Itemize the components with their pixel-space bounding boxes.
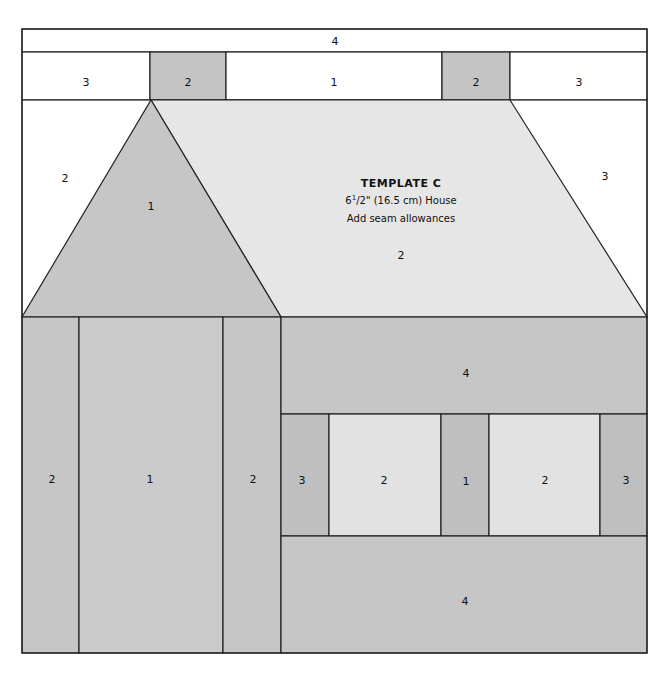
house-quilt-template: 4 3 2 1 2 3 2 1 2 3 TEMPLATE C 61/2" (16…: [0, 0, 668, 673]
label-chimney-left: 2: [185, 76, 192, 89]
template-title: TEMPLATE C: [361, 177, 442, 190]
label-door: 1: [147, 473, 154, 486]
label-roof: 2: [398, 249, 405, 262]
label-wall-top: 4: [463, 367, 470, 380]
label-window-right-side: 3: [623, 474, 630, 487]
template-size: 61/2" (16.5 cm) House: [345, 194, 456, 206]
label-sky-left: 2: [62, 172, 69, 185]
template-note: Add seam allowances: [347, 213, 455, 224]
size-rest: " (16.5 cm) House: [366, 195, 457, 206]
template-diagram: [0, 0, 668, 673]
label-door-right-strip: 2: [250, 473, 257, 486]
size-fraction-denominator: /2: [356, 195, 366, 206]
label-window-left: 2: [381, 474, 388, 487]
label-door-left-strip: 2: [49, 473, 56, 486]
label-sky-right: 3: [602, 170, 609, 183]
label-top-strip: 4: [332, 35, 339, 48]
label-wall-bottom: 4: [462, 595, 469, 608]
label-gable: 1: [148, 200, 155, 213]
label-chimney-right: 2: [473, 76, 480, 89]
label-window-left-side: 3: [299, 474, 306, 487]
label-chimney-right-space: 3: [576, 76, 583, 89]
label-window-right: 2: [542, 474, 549, 487]
label-chimney-left-space: 3: [83, 76, 90, 89]
label-chimney-mid-space: 1: [331, 76, 338, 89]
piece-wall-top: [281, 317, 647, 414]
label-window-divider: 1: [463, 475, 470, 488]
